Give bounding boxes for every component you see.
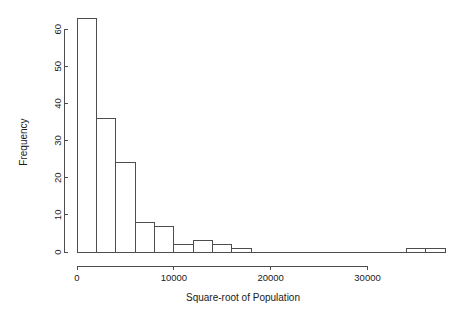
y-axis: 0102030405060	[52, 24, 68, 255]
histogram-bar	[193, 241, 212, 252]
histogram-svg: 0102030405060 0100002000030000 Square-ro…	[0, 0, 459, 319]
x-axis-ticks: 0100002000030000	[74, 266, 380, 283]
histogram-bar	[426, 248, 445, 252]
x-axis: 0100002000030000	[74, 266, 380, 283]
y-tick-label: 0	[52, 249, 63, 254]
histogram-bar	[77, 18, 96, 252]
histogram-bar	[406, 248, 425, 252]
y-tick-label: 10	[52, 210, 63, 221]
y-tick-label: 60	[52, 24, 63, 35]
x-tick-label: 30000	[354, 272, 380, 283]
histogram-bars	[77, 18, 445, 252]
x-axis-title: Square-root of Population	[186, 292, 300, 303]
y-tick-label: 40	[52, 98, 63, 109]
histogram-plot-container: 0102030405060 0100002000030000 Square-ro…	[0, 0, 459, 319]
histogram-bar	[154, 226, 173, 252]
histogram-bar	[174, 245, 193, 252]
y-tick-label: 20	[52, 172, 63, 183]
histogram-bar	[232, 248, 251, 252]
x-tick-label: 10000	[161, 272, 187, 283]
x-tick-label: 20000	[257, 272, 283, 283]
histogram-bar	[116, 163, 135, 252]
histogram-bar	[135, 222, 154, 252]
y-tick-label: 30	[52, 135, 63, 146]
y-axis-title: Frequency	[18, 118, 29, 165]
y-axis-ticks: 0102030405060	[52, 24, 68, 255]
histogram-bar	[96, 118, 115, 252]
y-tick-label: 50	[52, 61, 63, 72]
x-tick-label: 0	[74, 272, 79, 283]
histogram-bar	[213, 245, 232, 252]
